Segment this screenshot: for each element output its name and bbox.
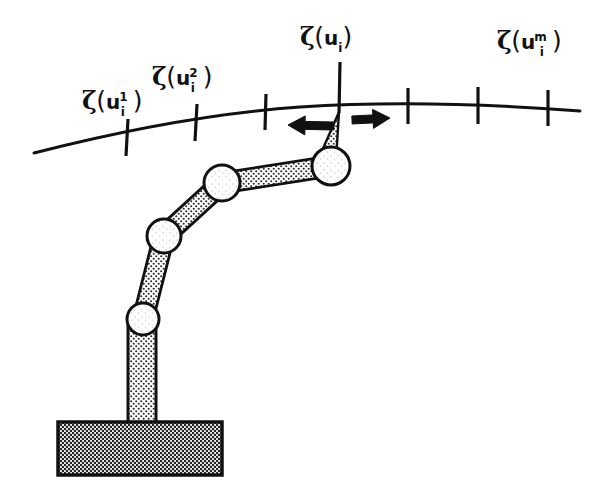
close-paren: ) (552, 26, 562, 55)
open-paren: ( (96, 86, 106, 115)
surface-point-label-m: ζ(umi) (497, 28, 562, 55)
close-paren: ) (203, 62, 213, 91)
subscript: i (121, 105, 125, 119)
surface-point-label-2: ζ(u2i) (152, 64, 213, 91)
surface-point-label-1: ζ(u1i) (82, 88, 143, 115)
superscript: 1 (119, 90, 127, 104)
zeta-glyph: ζ (300, 22, 314, 51)
tick-mark-2 (195, 104, 197, 141)
arrow-right (352, 109, 390, 128)
u-glyph: u (324, 26, 338, 50)
subscript: i (191, 81, 195, 95)
superscript: 2 (189, 66, 197, 80)
close-paren: ) (342, 22, 352, 51)
zeta-glyph: ζ (152, 62, 166, 91)
open-paren: ( (511, 26, 521, 55)
zeta-glyph: ζ (497, 26, 511, 55)
joint-shoulder (127, 303, 159, 335)
zeta-glyph: ζ (82, 86, 96, 115)
base-platform (58, 422, 222, 475)
tick-mark-current (339, 62, 340, 113)
tick-mark-1 (126, 119, 128, 156)
close-paren: ) (133, 86, 143, 115)
surface-point-label-current: ζ(ui) (300, 24, 352, 51)
subscript: i (540, 45, 544, 59)
open-paren: ( (166, 62, 176, 91)
joint-elbow-lower (147, 219, 181, 253)
joint-elbow-upper (204, 165, 240, 201)
open-paren: ( (314, 22, 324, 51)
joint-end-effector (312, 147, 350, 185)
arm-joints-group (127, 147, 350, 335)
tick-mark-3 (265, 94, 266, 130)
diagram-svg (0, 0, 607, 499)
superscript: m (534, 30, 547, 44)
figure-canvas: ζ(u1i) ζ(u2i) ζ(ui) ζ(umi) (0, 0, 607, 499)
arrow-left (288, 116, 334, 135)
subscript: i (338, 41, 342, 55)
